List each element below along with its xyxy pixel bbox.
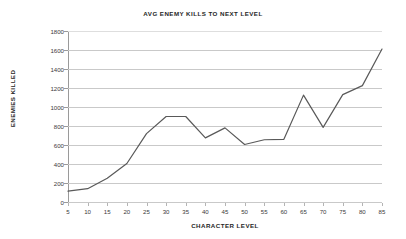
data-series-layer (0, 0, 406, 239)
chart-container: AVG ENEMY KILLS TO NEXT LEVEL 1800160014… (0, 0, 406, 239)
series-line-avg-enemy-kills (68, 49, 382, 191)
